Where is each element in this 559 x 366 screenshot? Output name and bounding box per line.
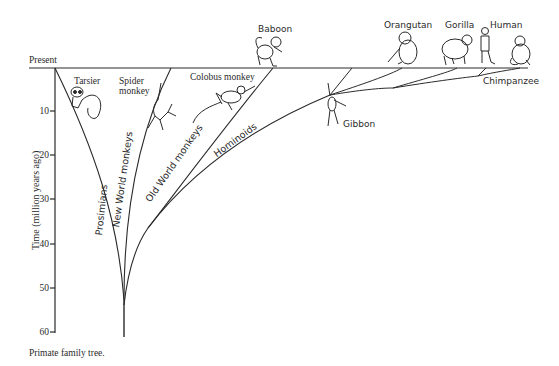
figure-caption: Primate family tree. [29, 348, 105, 358]
tick-label-10: 10 [29, 106, 49, 116]
gibbon-label: Gibbon [343, 120, 375, 129]
gorilla-icon [442, 35, 472, 65]
human-label: Human [490, 21, 522, 30]
chimpanzee-label: Chimpanzee [483, 77, 539, 86]
y-axis-title: Time (million years ago) [30, 151, 41, 250]
gorilla-line [393, 68, 457, 88]
tick-label-50: 50 [29, 283, 49, 293]
old-world-branch [148, 68, 273, 228]
tarsier-label: Tarsier [74, 77, 100, 87]
tree-diagram [0, 0, 559, 366]
orangutan-icon [388, 32, 417, 64]
human-icon [481, 28, 495, 65]
colobus-monkey-icon [193, 86, 255, 123]
catarrhine-stem [124, 228, 148, 305]
gorilla-label: Gorilla [445, 21, 474, 30]
orangutan-label: Orangutan [384, 21, 432, 30]
baboon-icon [256, 37, 282, 66]
chimpanzee-icon [510, 36, 530, 65]
baboon-label: Baboon [258, 25, 292, 34]
tick-label-60: 60 [29, 327, 49, 337]
spider-monkey-label-line2: monkey [119, 87, 150, 97]
colobus-monkey-label: Colobus monkey [190, 73, 255, 83]
present-label: Present [29, 56, 57, 66]
axis-ticks [50, 111, 55, 332]
human-chimp-stem [393, 76, 478, 88]
prosimian-branch [55, 68, 124, 300]
spider-monkey-icon [148, 83, 176, 130]
